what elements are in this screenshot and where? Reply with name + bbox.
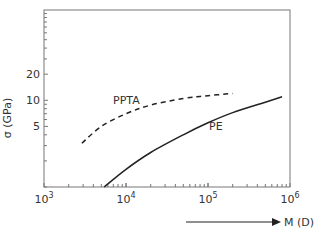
y-tick-label: 5 — [33, 120, 40, 133]
x-tick-label: 105 — [198, 191, 217, 206]
y-axis-title: σ (GPa) — [1, 98, 14, 138]
x-axis-title: M (D) — [284, 216, 314, 229]
chart: 51020 103104105106 PPTA PE σ (GPa) M (D) — [0, 0, 317, 235]
x-axis-arrow — [186, 218, 281, 226]
series-line-pe — [104, 97, 282, 187]
x-tick-label: 104 — [116, 191, 135, 206]
series-label-ppta: PPTA — [113, 94, 140, 107]
y-minor-ticks — [44, 14, 48, 187]
x-minor-ticks — [44, 183, 290, 187]
plot-frame — [44, 10, 290, 187]
y-tick-labels: 51020 — [26, 68, 40, 133]
arrowhead-icon — [272, 218, 281, 226]
series-line-ppta — [82, 93, 233, 143]
x-tick-labels: 103104105106 — [34, 191, 299, 206]
series-lines — [82, 93, 282, 187]
x-tick-label: 103 — [34, 191, 53, 206]
y-tick-label: 20 — [26, 68, 40, 81]
x-tick-label: 106 — [280, 191, 299, 206]
series-label-pe: PE — [209, 120, 223, 133]
y-tick-label: 10 — [26, 94, 40, 107]
